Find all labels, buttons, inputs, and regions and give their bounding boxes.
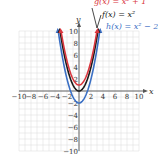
x-axis-label: x <box>149 87 154 96</box>
label-h: h(x) = x² − 2 <box>106 22 158 31</box>
svg-text:8: 8 <box>74 40 78 48</box>
label-f: f(x) = x² <box>101 10 135 19</box>
svg-text:−4: −4 <box>68 112 79 120</box>
pointer-g <box>92 8 97 28</box>
y-axis-label: y <box>75 15 81 24</box>
annotations: g(x) = x² + 1 f(x) = x² h(x) = x² − 2 x … <box>75 0 158 96</box>
svg-text:−6: −6 <box>68 124 79 132</box>
svg-text:2: 2 <box>89 93 93 101</box>
svg-text:−6: −6 <box>38 93 49 101</box>
svg-text:4: 4 <box>101 93 106 101</box>
svg-text:10: 10 <box>135 93 144 101</box>
pointer-f <box>97 15 101 28</box>
svg-text:6: 6 <box>74 52 79 60</box>
svg-text:−8: −8 <box>26 93 36 101</box>
svg-text:6: 6 <box>113 93 118 101</box>
svg-text:4: 4 <box>74 64 79 72</box>
svg-text:−2: −2 <box>68 100 78 108</box>
label-g: g(x) = x² + 1 <box>94 0 146 6</box>
svg-text:−8: −8 <box>68 136 78 144</box>
svg-text:10: 10 <box>69 28 78 36</box>
svg-text:−10: −10 <box>63 148 78 156</box>
svg-text:−4: −4 <box>50 93 61 101</box>
svg-text:8: 8 <box>125 93 129 101</box>
svg-text:−10: −10 <box>12 93 27 101</box>
chart: −10−8−6−4−2246810108642−2−4−6−8−10 g(x) … <box>0 0 158 159</box>
